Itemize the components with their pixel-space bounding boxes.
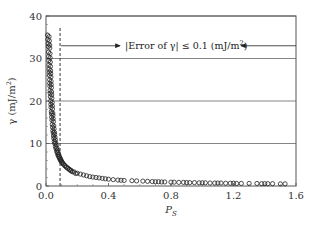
- data-points: [45, 33, 287, 186]
- y-axis-label: γ (mJ/m2): [5, 77, 17, 125]
- y-tick-label: 30: [29, 53, 42, 64]
- y-tick-label: 20: [29, 96, 42, 107]
- data-point: [224, 181, 228, 185]
- data-point: [283, 182, 287, 186]
- x-tick-label: 1.2: [226, 190, 242, 201]
- data-point: [270, 182, 274, 186]
- data-point: [163, 180, 167, 184]
- data-point: [235, 181, 239, 185]
- data-point: [255, 181, 259, 185]
- x-tick-label: 0.4: [101, 190, 117, 201]
- data-point: [135, 179, 139, 183]
- horizontal-gridlines: [46, 16, 296, 144]
- y-tick-label: 40: [29, 11, 42, 22]
- x-axis-label: PS: [164, 204, 177, 218]
- data-point: [172, 180, 176, 184]
- y-tick-label: 10: [29, 138, 42, 149]
- data-point: [203, 181, 207, 185]
- data-point: [188, 181, 192, 185]
- data-point: [130, 179, 134, 183]
- data-point: [122, 178, 126, 182]
- x-tick-label: 1.6: [288, 190, 304, 201]
- x-tick-label: 0.0: [38, 190, 54, 201]
- x-tick-label: 0.8: [163, 190, 179, 201]
- data-point: [141, 179, 145, 183]
- data-point: [208, 181, 212, 185]
- data-point: [219, 181, 223, 185]
- y-tick-label: 0: [36, 181, 42, 192]
- error-annotation: |Error of γ| ≤ 0.1 (mJ/m2): [125, 39, 247, 52]
- data-point: [266, 182, 270, 186]
- data-point: [239, 181, 243, 185]
- data-point: [177, 180, 181, 184]
- data-point: [145, 179, 149, 183]
- data-point: [192, 181, 196, 185]
- annotation: |Error of γ| ≤ 0.1 (mJ/m2): [61, 39, 296, 52]
- data-point: [111, 178, 115, 182]
- scatter-chart: 0.00.40.81.21.6 010203040 |Error of γ| ≤…: [0, 0, 319, 230]
